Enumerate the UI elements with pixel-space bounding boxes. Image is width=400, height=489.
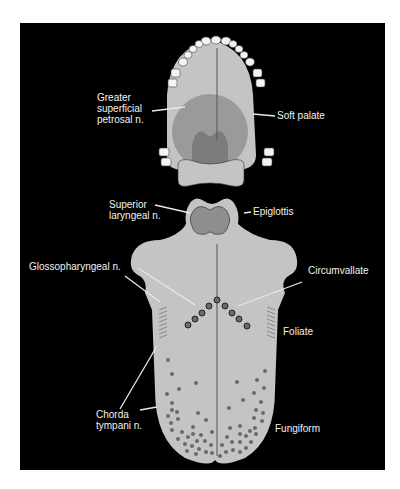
label-foliate: Foliate xyxy=(283,326,313,337)
label-greater-superficial-petrosal-2: superficial xyxy=(97,103,142,114)
label-chorda-tympani-2: tympani n. xyxy=(96,420,142,431)
label-soft-palate: Soft palate xyxy=(277,110,325,121)
label-greater-superficial-petrosal-3: petrosal n. xyxy=(97,114,144,125)
label-circumvallate: Circumvallate xyxy=(308,265,369,276)
label-chorda-tympani-1: Chorda xyxy=(96,409,129,420)
label-glossopharyngeal: Glossopharyngeal n. xyxy=(29,261,121,272)
upper-jaw xyxy=(159,36,274,186)
epiglottis xyxy=(190,207,229,235)
tongue-body xyxy=(131,198,297,463)
label-fungiform: Fungiform xyxy=(275,423,320,434)
label-superior-laryngeal-2: laryngeal n. xyxy=(109,210,161,221)
uvula-region xyxy=(192,131,228,166)
label-superior-laryngeal-1: Superior xyxy=(109,199,147,210)
label-greater-superficial-petrosal-1: Greater xyxy=(97,92,132,103)
tongue xyxy=(131,198,297,463)
label-epiglottis: Epiglottis xyxy=(253,206,294,217)
taste-innervation-diagram: Greater superficial petrosal n. Soft pal… xyxy=(0,0,400,489)
